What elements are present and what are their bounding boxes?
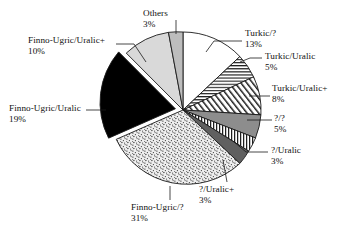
pie-label-turkic-uralic: Turkic/Uralic 5% — [265, 51, 315, 72]
pie-label-finno-ugric-uralic-plus-name: Finno-Ugric/Uralic+ — [28, 35, 105, 45]
pie-label-q-uralic-name: ?/Uralic — [271, 145, 301, 155]
pie-label-finno-ugric-uralic-plus: Finno-Ugric/Uralic+ 10% — [28, 35, 105, 56]
pie-label-q-uralic-plus: ?/Uralic+ 3% — [199, 184, 234, 205]
pie-label-turkic-uralic-plus-name: Turkic/Uralic+ — [272, 83, 328, 93]
pie-label-finno-ugric-q: Finno-Ugric/? 31% — [131, 202, 184, 223]
pie-label-q-q-pct: 5% — [274, 124, 286, 135]
pie-label-turkic-q-name: Turkic/? — [245, 28, 276, 38]
pie-label-q-uralic-pct: 3% — [271, 156, 301, 167]
pie-label-finno-ugric-q-name: Finno-Ugric/? — [131, 202, 184, 212]
pie-label-turkic-uralic-plus: Turkic/Uralic+ 8% — [272, 83, 328, 104]
pie-label-others: Others 3% — [143, 8, 168, 29]
pie-label-q-q: ?/? 5% — [274, 113, 286, 134]
pie-chart-figure: Others 3% Turkic/? 13% Turkic/Uralic 5% … — [0, 0, 342, 228]
pie-label-q-uralic-plus-name: ?/Uralic+ — [199, 184, 234, 194]
pie-label-finno-ugric-uralic-pct: 19% — [9, 114, 81, 125]
pie-label-turkic-uralic-plus-pct: 8% — [272, 94, 328, 105]
pie-label-others-name: Others — [143, 8, 168, 18]
pie-label-turkic-q: Turkic/? 13% — [245, 28, 276, 49]
pie-label-others-pct: 3% — [143, 19, 168, 30]
pie-label-turkic-uralic-name: Turkic/Uralic — [265, 51, 315, 61]
pie-label-turkic-q-pct: 13% — [245, 39, 276, 50]
pie-label-turkic-uralic-pct: 5% — [265, 62, 315, 73]
pie-label-q-uralic-plus-pct: 3% — [199, 195, 234, 206]
pie-label-finno-ugric-uralic: Finno-Ugric/Uralic 19% — [9, 103, 81, 124]
pie-label-finno-ugric-q-pct: 31% — [131, 213, 184, 224]
pie-label-finno-ugric-uralic-name: Finno-Ugric/Uralic — [9, 103, 81, 113]
pie-slices — [100, 32, 261, 184]
pie-label-finno-ugric-uralic-plus-pct: 10% — [28, 46, 105, 57]
pie-label-q-uralic: ?/Uralic 3% — [271, 145, 301, 166]
pie-label-q-q-name: ?/? — [274, 113, 285, 123]
